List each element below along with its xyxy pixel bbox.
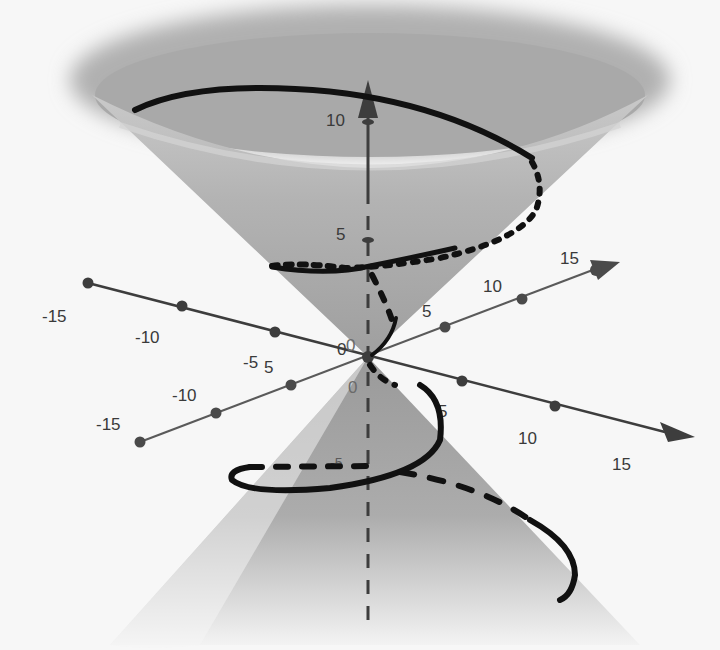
upper-cone (70, 5, 670, 357)
x-tick-label-neg5: -5 (243, 353, 258, 372)
x-tick-label-neg15: -15 (42, 307, 67, 326)
plot-canvas[interactable]: 10 5 -5 -15 -10 -5 5 10 15 -15 -10 5 5 1… (0, 0, 720, 650)
y-tick-label-10: 10 (483, 277, 502, 296)
origin-label-b: 0 (346, 336, 355, 355)
y-tick-label-5: 5 (422, 302, 431, 321)
x-tick-label-10: 10 (518, 429, 537, 448)
origin-label-c: 0 (348, 378, 357, 397)
y-tick-label-neg15: -15 (96, 415, 121, 434)
z-tick-5 (362, 237, 374, 243)
y-tick-label-neg10: -10 (172, 386, 197, 405)
x-axis-arrow-icon (660, 422, 695, 442)
x-tick-label-15: 15 (612, 455, 631, 474)
z-tick-label-10: 10 (326, 111, 345, 130)
z-tick-label-5: 5 (336, 225, 345, 244)
x-tick-label-neg10: -10 (135, 328, 160, 347)
y-tick-label-neg5: 5 (264, 358, 273, 377)
y-tick-label-15: 15 (560, 249, 579, 268)
